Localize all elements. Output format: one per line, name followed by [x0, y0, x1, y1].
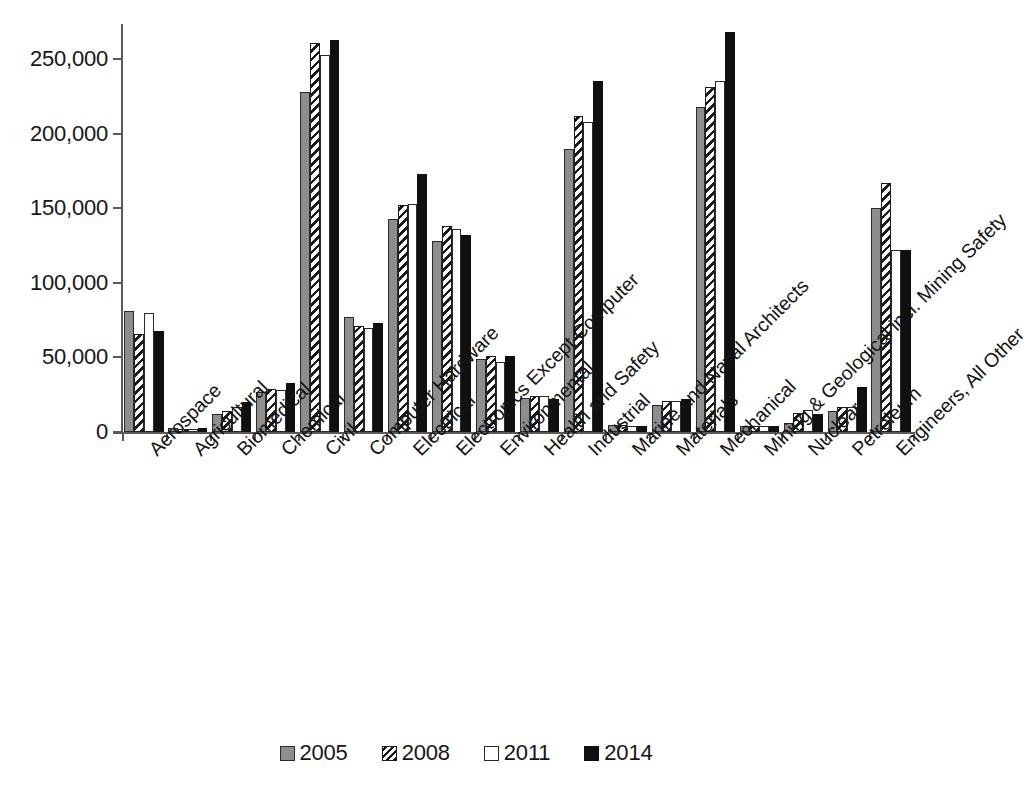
solid-gray-swatch — [280, 746, 295, 761]
bar-group — [210, 24, 254, 432]
bar — [364, 328, 374, 432]
y-axis-tick-label: 150,000 — [0, 197, 108, 219]
legend-item: 2005 — [280, 742, 348, 764]
bar-group — [122, 24, 166, 432]
bar-group — [386, 24, 430, 432]
bar — [388, 219, 398, 432]
bar — [398, 205, 408, 432]
bar — [154, 331, 164, 432]
y-axis-tick-label: 200,000 — [0, 123, 108, 145]
bar — [144, 313, 154, 432]
bar — [344, 317, 354, 432]
plot-area — [122, 24, 913, 432]
x-axis-tick — [122, 432, 124, 441]
y-axis-tick-label: 50,000 — [0, 346, 108, 368]
legend-item-label: 2005 — [300, 742, 348, 764]
legend-item: 2014 — [584, 742, 652, 764]
legend-item-label: 2008 — [402, 742, 450, 764]
legend-item-label: 2011 — [504, 742, 551, 764]
legend-item: 2008 — [382, 742, 450, 764]
y-axis-tick-label-text: 150,000 — [4, 197, 108, 219]
bar — [310, 43, 320, 432]
y-axis-tick-label-text: 250,000 — [4, 48, 108, 70]
y-axis-tick-label-text: 100,000 — [4, 272, 108, 294]
y-axis-tick-label-text: 0 — [4, 421, 108, 443]
legend-item-label: 2014 — [604, 742, 652, 764]
y-axis-tick-label: 100,000 — [0, 272, 108, 294]
bar-group — [298, 24, 342, 432]
solid-black-swatch — [584, 746, 599, 761]
y-axis-tick-label: 250,000 — [0, 48, 108, 70]
bar — [134, 334, 144, 432]
bar-group — [869, 24, 913, 432]
bar — [881, 183, 891, 432]
bar-group — [737, 24, 781, 432]
bar-group — [166, 24, 210, 432]
bar — [373, 323, 383, 432]
chart-legend: 2005200820112014 — [0, 742, 932, 764]
bar-group — [474, 24, 518, 432]
bar-group — [649, 24, 693, 432]
bar-group — [781, 24, 825, 432]
open-swatch — [484, 746, 499, 761]
hatched-swatch — [382, 746, 397, 761]
bar-group — [254, 24, 298, 432]
y-axis-tick-label: 0 — [0, 421, 108, 443]
y-axis-tick-label-text: 50,000 — [4, 346, 108, 368]
bar — [354, 326, 364, 432]
bar-group — [342, 24, 386, 432]
bar — [593, 81, 603, 432]
bar — [871, 208, 881, 432]
bar — [320, 55, 330, 432]
bar — [124, 311, 134, 432]
legend-item: 2011 — [484, 742, 551, 764]
y-axis-tick-label-text: 200,000 — [4, 123, 108, 145]
bar — [330, 40, 340, 432]
